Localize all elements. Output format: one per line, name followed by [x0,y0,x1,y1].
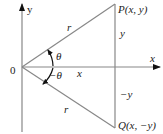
point-p-label: P(x, y) [117,3,148,16]
vertical-neg-y-label: −y [120,88,132,100]
theta-arc [48,50,53,66]
reflection-diagram: y x 0 P(x, y) Q(x, −y) r r y −y x θ −θ [0,0,163,134]
horizontal-x-label: x [76,67,82,79]
x-axis-label: x [149,52,155,64]
upper-radius-label: r [67,21,72,33]
neg-theta-label: −θ [49,69,62,81]
lower-radius-label: r [64,103,69,115]
y-axis-label: y [27,3,33,15]
radius-oq [22,67,115,128]
radius-op [22,4,115,67]
origin-label: 0 [10,64,16,76]
point-q-label: Q(x, −y) [118,119,156,132]
theta-label: θ [56,50,62,62]
vertical-y-label: y [119,27,125,39]
